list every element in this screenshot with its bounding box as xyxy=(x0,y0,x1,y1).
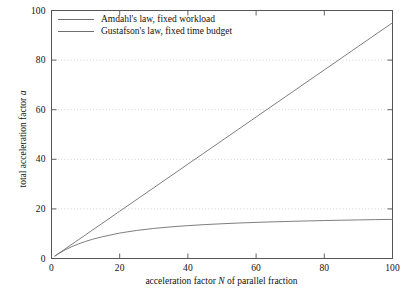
legend-item-0: Amdahl's law, fixed workload xyxy=(58,13,232,25)
legend-item-label: Gustafson's law, fixed time budget xyxy=(101,25,232,37)
legend-line-swatch xyxy=(58,19,94,20)
plot-canvas xyxy=(0,0,405,298)
x-tick-label-0: 0 xyxy=(49,263,54,273)
chart-figure: 020406080100 020406080100 total accelera… xyxy=(0,0,405,298)
x-tick-label-20: 20 xyxy=(115,263,125,273)
x-tick-label-40: 40 xyxy=(183,263,193,273)
x-tick-label-60: 60 xyxy=(251,263,261,273)
series-line-1 xyxy=(55,23,393,256)
legend-line-swatch xyxy=(58,31,94,32)
axes-frame xyxy=(52,11,393,259)
x-axis-title-suffix: of parallel fraction xyxy=(225,276,298,286)
gridlines-group xyxy=(52,60,393,209)
x-tick-label-100: 100 xyxy=(385,263,400,273)
y-axis-title: total acceleration factor a xyxy=(18,64,28,214)
plot-frame xyxy=(52,11,393,259)
y-axis-title-text: total acceleration factor xyxy=(18,95,28,187)
legend-item-label: Amdahl's law, fixed workload xyxy=(101,13,215,25)
axis-ticks xyxy=(52,11,393,259)
y-axis-title-variable: a xyxy=(18,91,28,96)
y-tick-label-100: 100 xyxy=(21,6,46,16)
series-lines xyxy=(55,23,393,256)
chart-legend: Amdahl's law, fixed workloadGustafson's … xyxy=(58,13,232,37)
x-axis-title: acceleration factor N of parallel fracti… xyxy=(51,276,392,286)
series-line-0 xyxy=(55,219,393,256)
legend-item-1: Gustafson's law, fixed time budget xyxy=(58,25,232,37)
x-axis-title-prefix: acceleration factor xyxy=(145,276,218,286)
y-tick-label-0: 0 xyxy=(21,254,46,264)
x-tick-label-80: 80 xyxy=(319,263,329,273)
